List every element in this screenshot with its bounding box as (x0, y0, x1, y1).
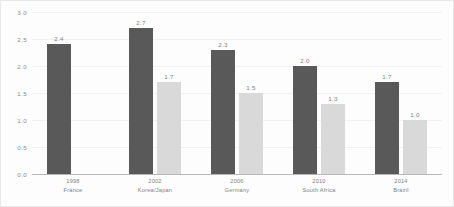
x-axis-year: 2006 (196, 177, 278, 186)
x-axis-group-label: 2002Korea/Japan (114, 177, 196, 203)
x-axis-year: 2002 (114, 177, 196, 186)
bar-slot: 1.7 (155, 12, 183, 174)
bar-group: 2.71.7 (114, 12, 196, 174)
bar-slot: 2.0 (291, 12, 319, 174)
x-axis-group-label: 2014Brazil (360, 177, 442, 203)
bar-slot: 1.7 (373, 12, 401, 174)
bar-chart: 3.02.52.01.51.00.50.0 2.42.71.72.31.52.0… (0, 0, 454, 207)
bar-slot: 2.3 (209, 12, 237, 174)
y-tick-label: 2.0 (17, 63, 27, 70)
bar-group: 2.31.5 (196, 12, 278, 174)
x-axis-group-label: 1998France (32, 177, 114, 203)
bar-group: 1.71.0 (360, 12, 442, 174)
x-axis-host: France (32, 186, 114, 195)
bar-value-label: 2.0 (300, 57, 310, 64)
y-axis: 3.02.52.01.51.00.50.0 (1, 12, 32, 174)
bar[interactable]: 1.7 (375, 82, 399, 174)
y-tick-label: 1.0 (17, 117, 27, 124)
bar[interactable]: 1.0 (403, 120, 427, 174)
bar[interactable]: 2.0 (293, 66, 317, 174)
y-tick-label: 2.5 (17, 36, 27, 43)
x-axis-group-label: 2006Germany (196, 177, 278, 203)
x-axis-host: Korea/Japan (114, 186, 196, 195)
y-tick-label: 3.0 (17, 9, 27, 16)
bar[interactable]: 2.7 (129, 28, 153, 174)
bar[interactable]: 2.4 (47, 44, 71, 174)
bar-slot: 1.0 (401, 12, 429, 174)
bar-groups: 2.42.71.72.31.52.01.31.71.0 (32, 12, 442, 174)
x-axis: 1998France2002Korea/Japan2006Germany2010… (32, 177, 442, 203)
bar-value-label: 2.3 (218, 41, 228, 48)
y-tick-label: 0.0 (17, 171, 27, 178)
y-tick-label: 0.5 (17, 144, 27, 151)
x-axis-year: 2014 (360, 177, 442, 186)
bar-group: 2.4 (32, 12, 114, 174)
x-axis-year: 1998 (32, 177, 114, 186)
x-axis-host: Germany (196, 186, 278, 195)
axis-baseline (32, 174, 442, 175)
bar-value-label: 1.5 (246, 84, 256, 91)
x-axis-host: Brazil (360, 186, 442, 195)
x-axis-host: South Africa (278, 186, 360, 195)
bar-group: 2.01.3 (278, 12, 360, 174)
bar[interactable]: 1.3 (321, 104, 345, 174)
bar-slot: 1.3 (319, 12, 347, 174)
bar-value-label: 1.7 (382, 73, 392, 80)
bar[interactable]: 2.3 (211, 50, 235, 174)
bar[interactable]: 1.5 (239, 93, 263, 174)
bar-value-label: 1.0 (410, 111, 420, 118)
bar-slot (73, 12, 101, 174)
x-axis-year: 2010 (278, 177, 360, 186)
bar[interactable]: 1.7 (157, 82, 181, 174)
bar-slot: 1.5 (237, 12, 265, 174)
bar-slot: 2.7 (127, 12, 155, 174)
x-axis-group-label: 2010South Africa (278, 177, 360, 203)
plot-area: 2.42.71.72.31.52.01.31.71.0 (32, 12, 442, 174)
bar-value-label: 2.7 (136, 19, 146, 26)
bar-value-label: 1.7 (164, 73, 174, 80)
bar-value-label: 2.4 (54, 35, 64, 42)
bar-value-label: 1.3 (328, 95, 338, 102)
bar-slot: 2.4 (45, 12, 73, 174)
y-tick-label: 1.5 (17, 90, 27, 97)
